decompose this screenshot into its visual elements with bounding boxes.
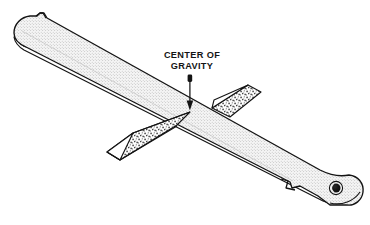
center-of-gravity-illustration: CENTER OF GRAVITY — [0, 0, 370, 225]
figure-container: CENTER OF GRAVITY — [0, 0, 370, 225]
callout-label: CENTER OF GRAVITY — [164, 50, 220, 71]
callout-leader-cap — [188, 75, 193, 82]
callout-line-2: GRAVITY — [171, 61, 214, 71]
callout-line-1: CENTER OF — [164, 50, 220, 60]
hanging-hole — [329, 181, 342, 194]
